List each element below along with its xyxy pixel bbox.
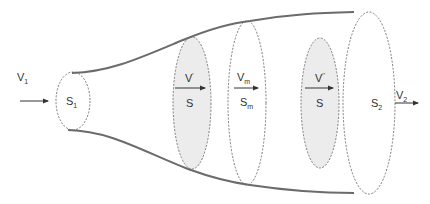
label-s-prime: S: [186, 98, 193, 109]
label-v-doubleprime: V'': [315, 72, 325, 84]
label-sm: Sm: [240, 97, 253, 110]
label-v1: V1: [17, 72, 28, 85]
section-s2: [343, 12, 395, 194]
label-vm: Vm: [237, 72, 250, 85]
label-s-doubleprime: S: [316, 98, 323, 109]
label-s1: S1: [66, 96, 77, 109]
label-s2: S2: [371, 98, 382, 111]
label-v2: V2: [396, 90, 407, 103]
tube-diagram: [0, 0, 430, 204]
label-v-prime: V': [185, 72, 194, 84]
